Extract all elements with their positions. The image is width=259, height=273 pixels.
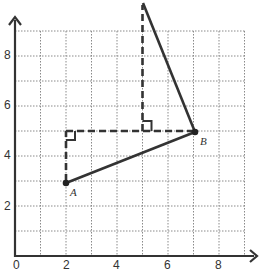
- point-a-label: A: [70, 186, 77, 198]
- segment-bc: [143, 3, 195, 132]
- point-a: [63, 180, 70, 187]
- grid: [15, 31, 245, 256]
- segment-ab: [66, 132, 195, 183]
- right-angle-marker-left: [66, 131, 75, 140]
- x-tick-8: 8: [215, 258, 222, 272]
- y-tick-4: 4: [4, 148, 11, 162]
- y-tick-2: 2: [4, 199, 11, 213]
- y-tick-8: 8: [4, 48, 11, 62]
- x-tick-0: 0: [13, 258, 20, 272]
- x-tick-4: 4: [113, 258, 120, 272]
- coordinate-diagram: [0, 0, 259, 273]
- x-tick-2: 2: [63, 258, 70, 272]
- right-angle-marker-right: [143, 121, 152, 131]
- y-tick-6: 6: [4, 98, 11, 112]
- x-tick-6: 6: [164, 258, 171, 272]
- axes: [14, 20, 254, 257]
- point-b-label: B: [200, 135, 207, 147]
- point-b: [192, 129, 199, 136]
